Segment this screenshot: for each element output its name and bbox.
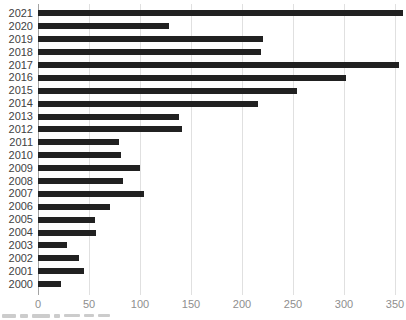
bar-row: 2012: [0, 123, 406, 136]
x-axis-tick-label: 0: [35, 298, 41, 310]
bar-2002: [38, 255, 79, 261]
bar-2021: [38, 10, 403, 16]
bar-row: 2004: [0, 226, 406, 239]
bar-2020: [38, 23, 169, 29]
y-axis-label: 2007: [0, 187, 33, 200]
bar-2016: [38, 75, 346, 81]
bar-row: 2001: [0, 265, 406, 278]
y-axis-label: 2011: [0, 136, 33, 149]
bar-2019: [38, 36, 263, 42]
x-axis-tick-label: 50: [83, 298, 95, 310]
bar-row: 2020: [0, 20, 406, 33]
bar-2006: [38, 204, 110, 210]
bar-row: 2015: [0, 84, 406, 97]
bar-row: 2017: [0, 59, 406, 72]
caption-fragment-mark: [2, 314, 16, 318]
cutoff-caption-fragment: [2, 314, 110, 320]
y-axis-label: 2001: [0, 265, 33, 278]
y-axis-label: 2013: [0, 110, 33, 123]
y-axis-label: 2014: [0, 97, 33, 110]
bar-row: 2019: [0, 33, 406, 46]
caption-fragment-mark: [84, 314, 94, 317]
bar-2003: [38, 242, 67, 248]
bar-2001: [38, 268, 84, 274]
bar-row: 2021: [0, 7, 406, 20]
bar-2007: [38, 191, 144, 197]
x-axis-tick-label: 100: [131, 298, 149, 310]
caption-fragment-mark: [54, 314, 60, 318]
y-axis-label: 2009: [0, 162, 33, 175]
x-axis-labels: 050100150200250300350: [0, 298, 406, 312]
bar-row: 2013: [0, 110, 406, 123]
bar-2012: [38, 126, 182, 132]
bar-chart: 2021202020192018201720162015201420132012…: [0, 0, 406, 320]
bar-2010: [38, 152, 121, 158]
y-axis-label: 2010: [0, 149, 33, 162]
x-axis-tick-label: 200: [233, 298, 251, 310]
y-axis-label: 2018: [0, 46, 33, 59]
y-axis-label: 2021: [0, 7, 33, 20]
bar-row: 2002: [0, 252, 406, 265]
bar-row: 2016: [0, 71, 406, 84]
x-axis-tick-label: 300: [335, 298, 353, 310]
bar-row: 2014: [0, 97, 406, 110]
bar-2015: [38, 88, 297, 94]
y-axis-label: 2015: [0, 84, 33, 97]
y-axis-label: 2003: [0, 239, 33, 252]
bar-2009: [38, 165, 140, 171]
y-axis-label: 2016: [0, 71, 33, 84]
bar-2008: [38, 178, 123, 184]
x-axis-tick-label: 250: [284, 298, 302, 310]
bar-row: 2000: [0, 278, 406, 291]
bar-2011: [38, 139, 119, 145]
bar-row: 2003: [0, 239, 406, 252]
y-axis-label: 2000: [0, 278, 33, 291]
bar-row: 2011: [0, 136, 406, 149]
bar-row: 2010: [0, 149, 406, 162]
y-axis-label: 2006: [0, 200, 33, 213]
bar-2014: [38, 101, 258, 107]
bar-row: 2006: [0, 200, 406, 213]
y-axis-label: 2004: [0, 226, 33, 239]
bar-row: 2007: [0, 187, 406, 200]
bar-2004: [38, 230, 96, 236]
bar-row: 2009: [0, 162, 406, 175]
x-axis-tick-label: 150: [182, 298, 200, 310]
caption-fragment-mark: [64, 314, 80, 317]
bar-2017: [38, 62, 399, 68]
bar-row: 2008: [0, 175, 406, 188]
y-axis-label: 2005: [0, 213, 33, 226]
bar-row: 2018: [0, 46, 406, 59]
y-axis-label: 2017: [0, 59, 33, 72]
caption-fragment-mark: [32, 314, 50, 318]
caption-fragment-mark: [98, 314, 110, 317]
bar-2005: [38, 217, 95, 223]
bar-2018: [38, 49, 261, 55]
chart-rows: 2021202020192018201720162015201420132012…: [0, 7, 406, 291]
bar-2013: [38, 114, 179, 120]
y-axis-label: 2012: [0, 123, 33, 136]
caption-fragment-mark: [20, 314, 28, 318]
bar-2000: [38, 281, 61, 287]
y-axis-label: 2020: [0, 20, 33, 33]
x-axis-tick-label: 350: [386, 298, 404, 310]
y-axis-label: 2019: [0, 33, 33, 46]
y-axis-label: 2002: [0, 252, 33, 265]
bar-row: 2005: [0, 213, 406, 226]
y-axis-label: 2008: [0, 175, 33, 188]
